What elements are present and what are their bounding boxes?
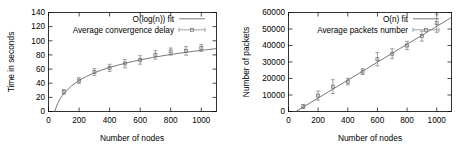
y-tick-label: 10000	[262, 91, 285, 100]
x-tick-label: 0	[286, 116, 291, 125]
y-tick-label: 140	[31, 8, 45, 17]
y-tick-label: 50000	[262, 25, 285, 34]
packets-number-svg: 0 10000 20000 30000 40000 50000 60000 0 …	[235, 0, 470, 151]
x-tick-label: 200	[72, 116, 86, 125]
x-tick-label: 600	[371, 116, 385, 125]
legend-label-fit: O(n) fit	[383, 15, 409, 24]
x-tick-label: 1000	[192, 116, 211, 125]
x-tick-label: 400	[103, 116, 117, 125]
x-tick-label: 0	[46, 116, 51, 125]
legend-errorbar-sample	[179, 28, 205, 32]
x-tick-labels: 0 200 400 600 800 1000	[46, 116, 211, 125]
x-tick-label: 400	[341, 116, 355, 125]
y-tick-labels: 0 10000 20000 30000 40000 50000 60000	[262, 8, 285, 116]
y-tick-label: 40000	[262, 41, 285, 50]
y-tick-label: 30000	[262, 58, 285, 67]
y-tick-label: 80	[36, 51, 46, 60]
data-point	[390, 49, 394, 59]
data-point	[123, 59, 127, 68]
data-point	[92, 69, 96, 76]
data-point	[405, 41, 409, 49]
figure-two-panel-charts: 0 20 40 60 80 100 120 140 0 200 400 600 …	[0, 0, 471, 151]
y-axis-title: Time in seconds	[6, 32, 16, 93]
legend-label-series: Average convergence delay	[73, 26, 175, 35]
data-point	[301, 105, 305, 109]
x-tick-label: 800	[164, 116, 178, 125]
data-point	[108, 64, 112, 71]
data-point	[153, 51, 157, 60]
x-axis-title: Number of nodes	[100, 133, 164, 143]
y-tick-label: 20	[36, 93, 46, 102]
y-tick-label: 60	[36, 65, 46, 74]
legend-errorbar-sample	[413, 28, 439, 32]
y-tick-label: 40	[36, 79, 46, 88]
data-point	[184, 47, 188, 56]
legend-label-fit: O(log(n)) fit	[133, 15, 175, 24]
convergence-delay-svg: 0 20 40 60 80 100 120 140 0 200 400 600 …	[0, 0, 235, 151]
data-series-errorbars	[62, 44, 204, 94]
data-point	[77, 78, 81, 84]
data-point	[361, 69, 365, 75]
legend: O(log(n)) fit Average convergence delay	[73, 15, 205, 35]
x-tick-labels: 0 200 400 600 800 1000	[286, 116, 446, 125]
x-tick-label: 800	[400, 116, 414, 125]
y-tick-label: 100	[31, 37, 45, 46]
data-point	[331, 80, 335, 94]
x-tick-label: 1000	[428, 116, 447, 125]
chart-panel-packets-number: 0 10000 20000 30000 40000 50000 60000 0 …	[235, 0, 470, 151]
data-point	[375, 53, 379, 66]
y-tick-label: 0	[280, 107, 285, 116]
y-axis-title: Number of packets	[241, 27, 251, 97]
y-tick-label: 60000	[262, 8, 285, 17]
data-point	[138, 56, 142, 64]
legend-label-series: Average packets number	[317, 26, 408, 35]
y-tick-label: 120	[31, 22, 45, 31]
x-axis-title: Number of nodes	[338, 133, 402, 143]
y-tick-labels: 0 20 40 60 80 100 120 140	[31, 8, 45, 116]
y-tick-label: 20000	[262, 74, 285, 83]
data-point	[420, 31, 424, 41]
x-tick-label: 600	[133, 116, 147, 125]
x-tick-label: 200	[311, 116, 325, 125]
y-tick-label: 0	[40, 107, 45, 116]
data-point	[62, 90, 66, 94]
chart-panel-convergence-delay: 0 20 40 60 80 100 120 140 0 200 400 600 …	[0, 0, 235, 151]
